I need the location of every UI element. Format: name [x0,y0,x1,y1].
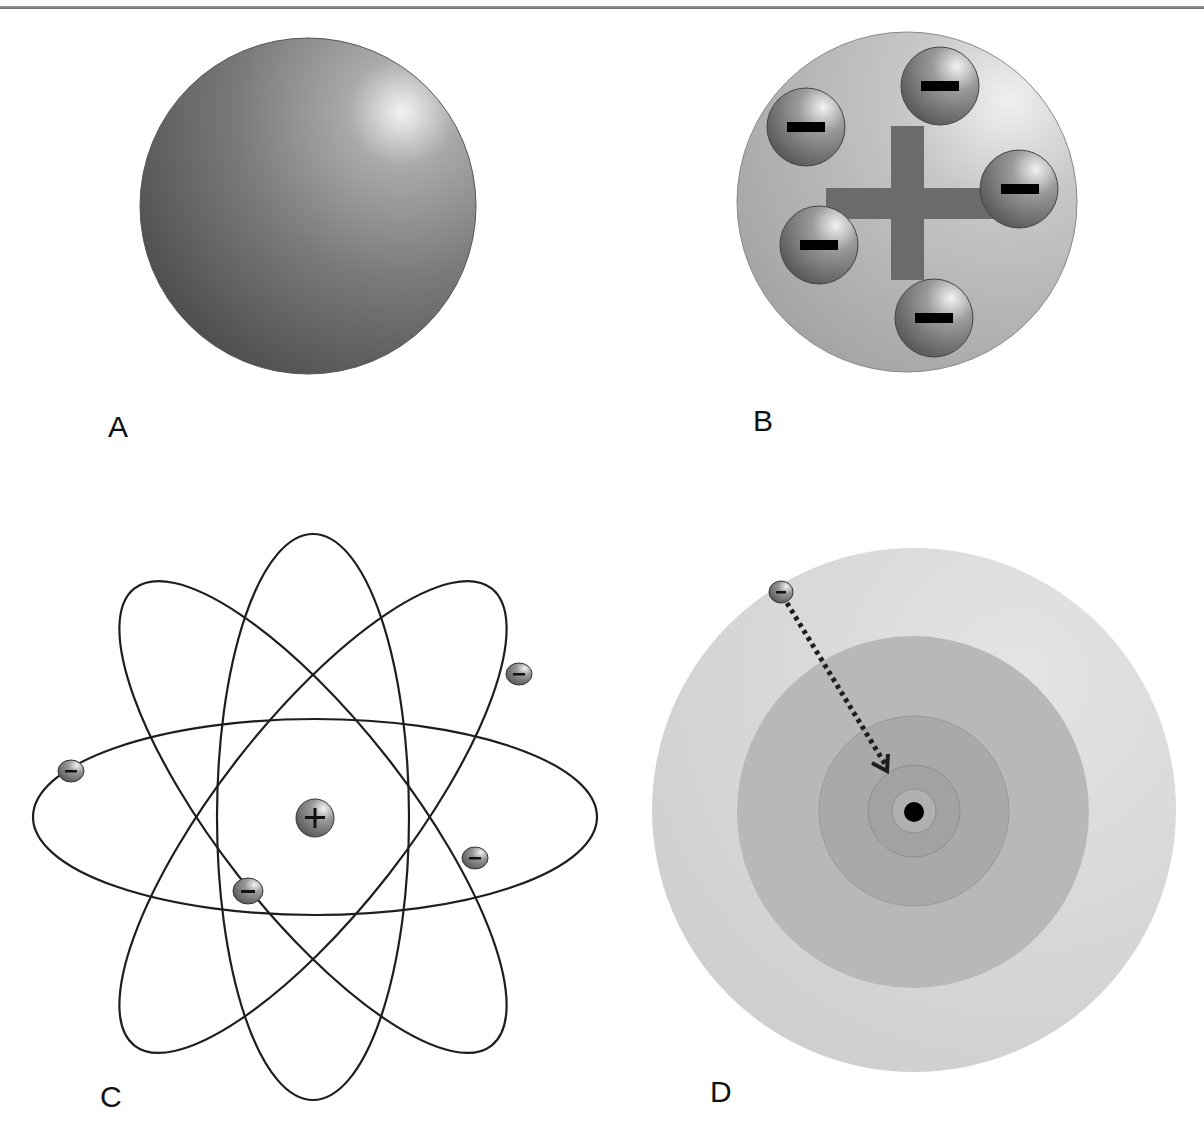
panel-label-c: C [100,1080,122,1114]
electron-icon [767,88,845,166]
panel-d-shell-model [652,548,1176,1072]
atomic-models-figure [0,0,1204,1125]
nucleus-dot [904,802,924,822]
panel-label-b: B [753,404,773,438]
nucleus-icon [296,799,334,837]
panel-b-plum-pudding [737,32,1077,372]
electron-icon [895,279,973,357]
electron-icon [901,47,979,125]
electron-icon [769,581,793,603]
electron-icon [462,847,488,869]
electron-icon [506,663,532,685]
panel-label-a: A [108,410,128,444]
panel-label-d: D [710,1075,732,1109]
electron-icon [780,206,858,284]
electron-icon [233,878,263,904]
electron-icon [58,760,84,782]
electron-icon [980,150,1058,228]
panel-a-solid-sphere [140,38,476,374]
